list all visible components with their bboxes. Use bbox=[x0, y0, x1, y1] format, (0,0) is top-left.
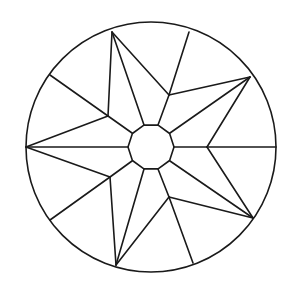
star-line-group bbox=[26, 32, 276, 265]
diagram-line bbox=[169, 197, 253, 218]
diagram-line bbox=[207, 77, 250, 147]
diagram-line bbox=[26, 147, 110, 177]
diagram-line bbox=[158, 169, 169, 197]
diagram-line bbox=[108, 32, 112, 116]
diagram-line bbox=[112, 32, 144, 125]
diagram-line bbox=[50, 75, 108, 116]
diagram-line bbox=[207, 147, 253, 218]
diagram-line bbox=[26, 116, 108, 147]
star-rosette-diagram bbox=[0, 0, 294, 289]
diagram-line bbox=[169, 197, 193, 263]
diagram-line bbox=[116, 197, 169, 265]
center-decagon bbox=[128, 125, 174, 169]
diagram-line bbox=[112, 32, 169, 95]
diagram-line bbox=[108, 116, 132, 133]
diagram-line bbox=[158, 95, 169, 125]
diagram-line bbox=[110, 177, 116, 265]
diagram-line bbox=[116, 169, 144, 265]
diagram-canvas bbox=[0, 0, 294, 289]
diagram-line bbox=[110, 161, 132, 177]
diagram-line bbox=[169, 32, 189, 95]
diagram-line bbox=[50, 177, 110, 220]
diagram-line bbox=[170, 161, 253, 218]
